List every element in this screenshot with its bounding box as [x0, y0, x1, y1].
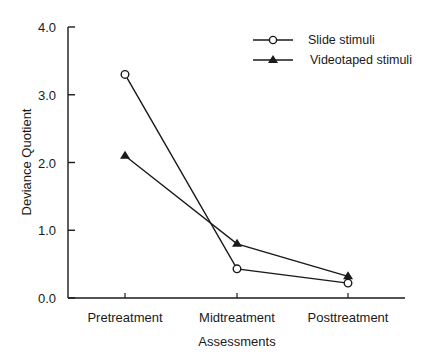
series-slide-stimuli — [121, 71, 352, 287]
x-tick-label: Midtreatment — [199, 310, 275, 325]
legend-label: Videotaped stimuli — [310, 53, 412, 67]
y-tick-label: 0.0 — [38, 291, 56, 306]
legend-item-slide: Slide stimuli — [253, 33, 375, 47]
axes — [68, 27, 405, 298]
x-tick-label: Posttreatment — [308, 310, 389, 325]
series-line — [125, 156, 348, 277]
legend-label: Slide stimuli — [308, 33, 375, 47]
legend: Slide stimuli Videotaped stimuli — [253, 33, 412, 67]
filled-triangle-marker-icon — [268, 55, 278, 63]
y-tick-label: 4.0 — [38, 20, 56, 35]
open-circle-marker-icon — [233, 265, 241, 273]
x-axis-title: Assessments — [198, 334, 276, 349]
legend-item-videotaped: Videotaped stimuli — [253, 53, 412, 67]
y-tick-label: 3.0 — [38, 88, 56, 103]
y-tick-label: 2.0 — [38, 156, 56, 171]
filled-triangle-marker-icon — [120, 151, 130, 159]
x-tick-label: Pretreatment — [87, 310, 163, 325]
data-series — [120, 71, 353, 287]
filled-triangle-marker-icon — [232, 239, 242, 247]
series-videotaped-stimuli — [120, 151, 353, 280]
series-line — [125, 74, 348, 283]
open-circle-marker-icon — [344, 279, 352, 287]
open-circle-marker-icon — [121, 71, 129, 79]
line-chart: 0.01.02.03.04.0 PretreatmentMidtreatment… — [0, 0, 430, 364]
open-circle-marker-icon — [269, 36, 276, 43]
y-axis-title: Deviance Quotient — [19, 108, 34, 215]
y-tick-label: 1.0 — [38, 223, 56, 238]
y-ticks: 0.01.02.03.04.0 — [38, 20, 75, 306]
